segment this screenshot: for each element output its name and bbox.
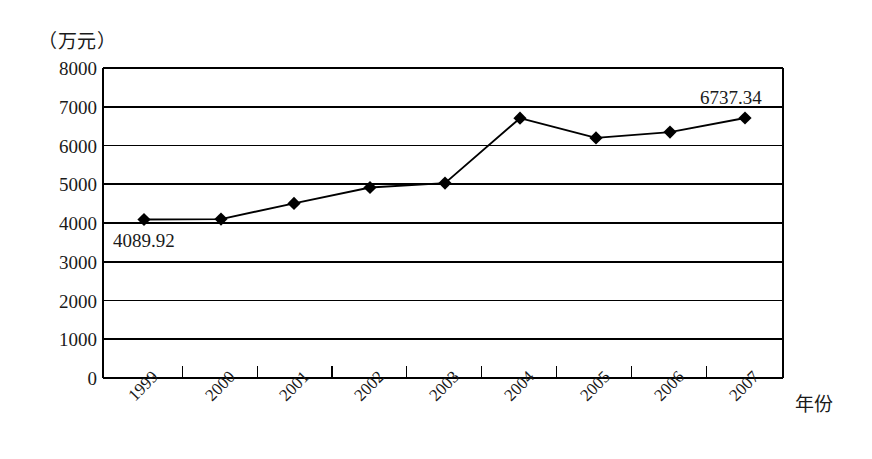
y-tick-label-2000: 2000: [35, 291, 97, 310]
data-point-2006: [663, 126, 676, 139]
y-tick-label-8000: 8000: [35, 59, 97, 78]
plot-area: [103, 68, 783, 378]
data-point-2007: [738, 111, 751, 124]
data-point-1999: [137, 213, 150, 226]
x-axis-tick-labels: 1999 2000 2001 2002 2003 2004 2005 2006 …: [103, 378, 783, 448]
gridlines: [103, 68, 783, 339]
data-point-2002: [363, 181, 376, 194]
y-tick-label-5000: 5000: [35, 175, 97, 194]
data-point-2001: [287, 197, 300, 210]
y-tick-label-4000: 4000: [35, 214, 97, 233]
y-tick-label-3000: 3000: [35, 252, 97, 271]
line-chart: （万元） 8000 7000 6000 5000 4000 3000 2000 …: [0, 0, 872, 459]
data-point-2005: [589, 131, 602, 144]
plot-svg: [103, 68, 783, 378]
series-markers: [137, 111, 751, 226]
y-tick-label-0: 0: [35, 369, 97, 388]
y-tick-label-6000: 6000: [35, 136, 97, 155]
y-axis-tick-labels: 8000 7000 6000 5000 4000 3000 2000 1000 …: [33, 68, 97, 378]
data-label-1999: 4089.92: [113, 231, 175, 250]
x-axis-title: 年份: [795, 389, 833, 416]
y-axis-unit-label: （万元）: [38, 26, 116, 53]
y-tick-label-1000: 1000: [35, 330, 97, 349]
data-label-2007: 6737.34: [700, 88, 762, 107]
y-tick-label-7000: 7000: [35, 97, 97, 116]
series-line: [144, 118, 745, 220]
